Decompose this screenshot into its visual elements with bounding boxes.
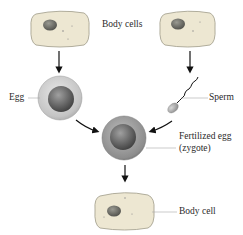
label-zygote-line1: Fertilized egg <box>179 131 232 142</box>
label-sperm: Sperm <box>209 92 234 103</box>
zygote-cell <box>102 116 146 160</box>
label-egg: Egg <box>9 92 24 103</box>
nucleus-icon <box>107 206 121 217</box>
nucleus-icon <box>171 19 185 30</box>
body-cell-right <box>160 11 215 47</box>
egg-cell <box>38 76 82 120</box>
sperm-cell <box>166 77 198 115</box>
label-body-cell: Body cell <box>179 206 216 217</box>
nucleus-icon <box>43 20 57 31</box>
fertilization-diagram <box>0 0 243 235</box>
label-zygote-line2: (zygote) <box>179 143 211 154</box>
arrow-icon <box>76 120 96 131</box>
body-cell-left <box>31 11 89 47</box>
body-cell-bottom <box>95 193 154 230</box>
label-body-cells: Body cells <box>102 19 142 30</box>
arrow-icon <box>152 121 172 131</box>
